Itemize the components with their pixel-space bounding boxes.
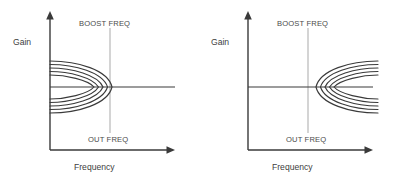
boost-freq-label: BOOST FREQ xyxy=(79,19,130,28)
left-panel-svg: Gain Frequency BOOST FREQ OUT FREQ xyxy=(0,0,198,179)
y-axis-arrowhead-icon xyxy=(46,11,54,20)
out-freq-label: OUT FREQ xyxy=(286,135,326,144)
right-panel-svg: Gain Frequency BOOST FREQ OUT FREQ xyxy=(198,0,396,179)
x-axis-arrowhead-icon xyxy=(167,146,176,154)
y-axis-label: Gain xyxy=(211,37,229,47)
x-axis-label: Frequency xyxy=(272,162,313,172)
y-axis-label: Gain xyxy=(13,37,31,47)
chart-panel-left: Gain Frequency BOOST FREQ OUT FREQ xyxy=(0,0,198,179)
x-axis-arrowhead-icon xyxy=(365,146,374,154)
boost-freq-label: BOOST FREQ xyxy=(277,19,328,28)
chart-panel-right: Gain Frequency BOOST FREQ OUT FREQ xyxy=(198,0,396,179)
out-freq-label: OUT FREQ xyxy=(88,135,128,144)
y-axis-arrowhead-icon xyxy=(244,11,252,20)
figure-canvas: Gain Frequency BOOST FREQ OUT FREQ xyxy=(0,0,396,179)
x-axis-label: Frequency xyxy=(74,162,115,172)
